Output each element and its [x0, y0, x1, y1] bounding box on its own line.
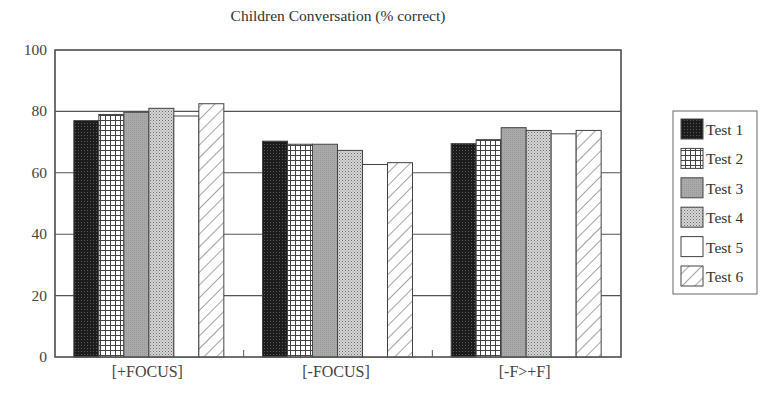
bar	[74, 121, 99, 357]
y-tick-label: 100	[24, 41, 48, 58]
plot-area	[55, 50, 621, 357]
legend-label: Test 1	[706, 121, 743, 138]
legend-swatch	[681, 266, 703, 286]
legend-swatch	[681, 237, 703, 257]
bar	[501, 128, 526, 357]
y-tick-label: 80	[32, 102, 48, 119]
legend-item: Test 5	[681, 237, 743, 257]
legend-swatch	[681, 178, 703, 198]
bar	[313, 144, 338, 357]
y-tick-label: 20	[32, 287, 48, 304]
legend-item: Test 2	[681, 148, 743, 168]
y-tick-label: 60	[32, 164, 48, 181]
bar	[288, 144, 313, 357]
y-tick-label: 40	[32, 225, 48, 242]
category-label: [-FOCUS]	[302, 363, 370, 380]
legend-item: Test 4	[681, 207, 743, 227]
bar-group	[451, 128, 601, 357]
legend-label: Test 6	[706, 268, 743, 285]
legend-label: Test 4	[706, 209, 743, 226]
legend-swatch	[681, 148, 703, 168]
legend-label: Test 3	[706, 180, 743, 197]
bar	[451, 144, 476, 357]
bar	[526, 130, 551, 357]
bar	[551, 134, 576, 357]
bar-group	[263, 141, 413, 357]
legend-swatch	[681, 207, 703, 227]
bar	[576, 130, 601, 357]
bar	[99, 114, 124, 357]
bar	[363, 165, 388, 357]
bar-group	[74, 104, 224, 357]
bar-chart: Children Conversation (% correct) 020406…	[0, 0, 783, 397]
legend-item: Test 1	[681, 119, 743, 139]
bar	[124, 112, 149, 357]
category-label: [+FOCUS]	[112, 363, 183, 380]
legend: Test 1Test 2Test 3Test 4Test 5Test 6	[673, 111, 757, 294]
legend-item: Test 3	[681, 178, 743, 198]
bar	[476, 140, 501, 357]
bar	[174, 116, 199, 357]
legend-item: Test 6	[681, 266, 743, 286]
y-axis: 020406080100	[24, 41, 48, 365]
legend-label: Test 5	[706, 239, 743, 256]
legend-swatch	[681, 119, 703, 139]
y-tick-label: 0	[39, 348, 47, 365]
chart-title: Children Conversation (% correct)	[231, 7, 446, 25]
bar	[338, 150, 363, 357]
bar	[388, 163, 413, 357]
bar	[199, 104, 224, 357]
bar	[149, 108, 174, 357]
legend-label: Test 2	[706, 150, 743, 167]
category-label: [-F>+F]	[499, 363, 551, 380]
bar	[263, 141, 288, 357]
